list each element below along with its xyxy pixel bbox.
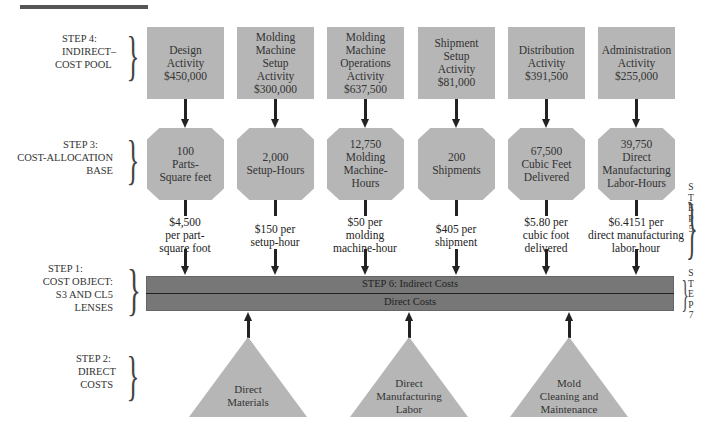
connector-line (274, 200, 277, 216)
mold-cleaning-label: MoldCleaning andMaintenance (510, 377, 628, 416)
indirect-costs-label: STEP 6: Indirect Costs (146, 278, 674, 289)
allocation-base-shipments: 200Shipments (418, 128, 495, 200)
arrow-down-icon (361, 119, 369, 128)
header-rule (20, 5, 148, 9)
arrow-down-icon (632, 266, 640, 275)
allocation-base-labor-hours: 39,750DirectManufacturingLabor-Hours (598, 128, 675, 200)
allocation-base-cubic-feet: 67,500Cubic FeetDelivered (508, 128, 585, 200)
connector-line (635, 200, 638, 216)
connector-line (545, 200, 548, 216)
step3-brace: } (126, 130, 139, 190)
arrow-shaft (274, 99, 277, 119)
connector-line (184, 200, 187, 216)
allocation-base-parts-square-feet: 100Parts-Square feet (147, 128, 224, 200)
direct-costs-label: Direct Costs (146, 296, 674, 307)
arrow-down-icon (452, 266, 460, 275)
step1-label: STEP 1: COST OBJECT: S3 AND CL5 LENSES (10, 262, 113, 314)
arrow-down-icon (181, 266, 189, 275)
step7-brace: } (681, 273, 688, 315)
arrow-shaft (364, 249, 367, 267)
step1-brace: } (127, 258, 141, 322)
direct-materials-label: DirectMaterials (189, 383, 307, 409)
arrow-down-icon (271, 266, 279, 275)
arrow-shaft (635, 99, 638, 119)
arrow-shaft (568, 320, 571, 338)
cost-pool-molding-setup: MoldingMachineSetupActivity$300,000 (237, 27, 314, 99)
arrow-down-icon (452, 119, 460, 128)
arrow-shaft (364, 99, 367, 119)
arrow-down-icon (361, 266, 369, 275)
arrow-shaft (545, 99, 548, 119)
arrow-down-icon (271, 119, 279, 128)
step4-brace: } (126, 26, 139, 86)
arrow-shaft (455, 99, 458, 119)
connector-line (455, 200, 458, 216)
arrow-shaft (184, 99, 187, 119)
arrow-shaft (184, 249, 187, 267)
rate-shipment: $405 pershipment (406, 223, 506, 249)
allocation-base-setup-hours: 2,000Setup-Hours (237, 128, 314, 200)
connector-line (364, 200, 367, 216)
step3-label: STEP 3: COST-ALLOCATION BASE (10, 138, 113, 177)
arrow-down-icon (181, 119, 189, 128)
cost-pool-distribution: DistributionActivity$391,500 (508, 27, 585, 99)
cost-pool-molding-operations: MoldingMachineOperationsActivity$637,500 (327, 27, 404, 99)
arrow-down-icon (542, 266, 550, 275)
step4-label: STEP 4: INDIRECT– COST POOL (30, 32, 130, 71)
arrow-shaft (274, 249, 277, 267)
step2-label: STEP 2: DIRECT COSTS (40, 352, 113, 391)
arrow-shaft (408, 320, 411, 338)
bar-divider (146, 293, 674, 294)
arrow-down-icon (542, 119, 550, 128)
step2-brace: } (126, 346, 139, 406)
cost-pool-design: DesignActivity$450,000 (147, 27, 224, 99)
cost-pool-shipment-setup: ShipmentSetupActivity$81,000 (418, 27, 495, 99)
cost-pool-administration: AdministrationActivity$255,000 (598, 27, 675, 99)
arrow-shaft (455, 249, 458, 267)
allocation-base-machine-hours: 12,750MoldingMachine-Hours (327, 128, 404, 200)
arrow-shaft (635, 249, 638, 267)
arrow-shaft (545, 249, 548, 267)
rate-setup: $150 persetup-hour (225, 223, 325, 249)
arrow-down-icon (632, 119, 640, 128)
arrow-shaft (247, 320, 250, 338)
direct-labor-label: DirectManufacturingLabor (350, 377, 468, 416)
